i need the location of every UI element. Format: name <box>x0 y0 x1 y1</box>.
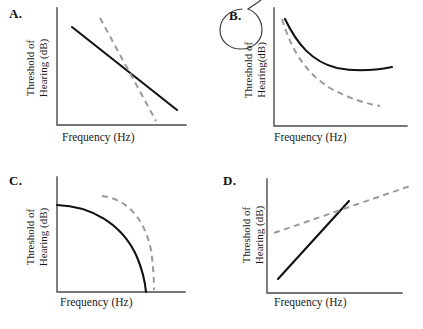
panel-d-y-axis-label: Threshold of Hearing (dB) <box>240 185 266 285</box>
panel-a-y-axis-label: Threshold of Hearing (dB) <box>24 18 50 118</box>
panel-b-solid-curve <box>285 19 392 70</box>
panel-c-solid-curve <box>57 205 146 292</box>
panel-d-y-axis-label-line1: Threshold of <box>240 185 253 285</box>
panel-a-solid-line <box>72 27 177 110</box>
panel-c-y-axis-label-line1: Threshold of <box>24 187 37 287</box>
panel-c-y-axis-label-line2: Hearing (dB) <box>37 187 50 287</box>
panel-d: D. Threshold of Hearing (dB) Frequency (… <box>212 165 423 329</box>
panel-d-solid-line <box>278 201 349 279</box>
panel-b-x-axis-label: Frequency (Hz) <box>274 131 346 143</box>
panel-a-y-axis-label-line2: Hearing (dB) <box>37 18 50 118</box>
panel-d-x-axis-label: Frequency (Hz) <box>274 296 346 308</box>
panel-b-y-axis-label: Threshold of Hearing(dB) <box>242 20 268 120</box>
panel-c-dashed-curve <box>102 196 154 290</box>
hearing-threshold-figure: A. Threshold of Hearing (dB) Frequency (… <box>0 0 423 329</box>
panel-c-x-axis-label: Frequency (Hz) <box>60 296 132 308</box>
panel-c: C. Threshold of Hearing (dB) Frequency (… <box>0 165 211 329</box>
panel-b-dashed-curve <box>282 19 380 106</box>
panel-d-y-axis-label-line2: Hearing (dB) <box>253 185 266 285</box>
panel-a-x-axis-label: Frequency (Hz) <box>62 131 134 143</box>
panel-c-y-axis-label: Threshold of Hearing (dB) <box>24 187 50 287</box>
panel-c-axes <box>57 177 185 292</box>
panel-d-axes <box>267 179 402 293</box>
panel-a-y-axis-label-line1: Threshold of <box>24 18 37 118</box>
panel-a-dashed-line <box>100 18 156 121</box>
panel-b-y-axis-label-line1: Threshold of <box>242 20 255 120</box>
panel-b-y-axis-label-line2: Hearing(dB) <box>255 20 268 120</box>
panel-b: B. Threshold of Hearing(dB) Frequency (H… <box>212 0 423 164</box>
panel-a: A. Threshold of Hearing (dB) Frequency (… <box>0 0 211 164</box>
